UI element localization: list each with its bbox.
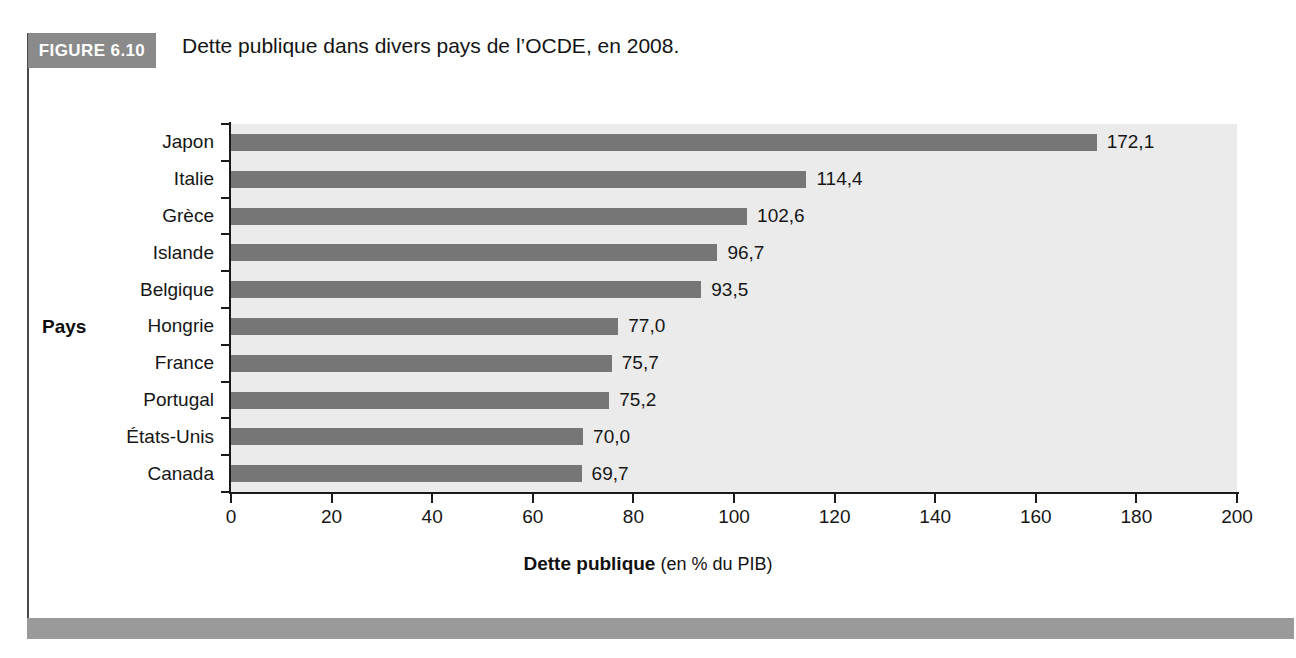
- figure-container: FIGURE 6.10 Dette publique dans divers p…: [0, 0, 1296, 658]
- x-axis-tick-label: 120: [819, 506, 851, 528]
- y-axis-title: Pays: [42, 316, 86, 338]
- x-axis-tick: [934, 494, 936, 503]
- y-axis-tick: [221, 381, 230, 383]
- y-axis-tick: [221, 491, 230, 493]
- x-axis-tick: [834, 494, 836, 503]
- bar-value-label: 75,7: [622, 353, 659, 372]
- y-axis-tick: [221, 270, 230, 272]
- y-axis-category-label: États-Unis: [126, 427, 214, 446]
- bar: [231, 428, 583, 445]
- y-axis-tick: [221, 233, 230, 235]
- x-axis-tick-label: 60: [522, 506, 543, 528]
- y-axis-category-label: Hongrie: [147, 316, 214, 335]
- y-axis-tick: [221, 417, 230, 419]
- y-axis-category-label: Islande: [153, 243, 214, 262]
- y-axis-tick: [221, 123, 230, 125]
- bar-value-label: 70,0: [593, 427, 630, 446]
- x-axis-tick-label: 100: [718, 506, 750, 528]
- bar-value-label: 114,4: [816, 169, 862, 188]
- x-axis-tick: [431, 494, 433, 503]
- x-axis-tick: [733, 494, 735, 503]
- x-axis-title: Dette publique (en % du PIB): [0, 553, 1296, 575]
- bar-value-label: 77,0: [628, 316, 665, 335]
- bar-value-label: 172,1: [1107, 132, 1155, 151]
- x-axis-tick: [532, 494, 534, 503]
- x-axis-tick: [1236, 494, 1238, 503]
- bar-value-label: 69,7: [592, 464, 629, 483]
- left-vertical-rule: [27, 33, 29, 625]
- bar: [231, 355, 612, 372]
- figure-number-badge: FIGURE 6.10: [28, 33, 156, 68]
- y-axis-tick: [221, 344, 230, 346]
- bar: [231, 318, 618, 335]
- bar-value-label: 93,5: [711, 280, 748, 299]
- y-axis-category-label: Grèce: [162, 206, 214, 225]
- x-axis-tick-label: 40: [422, 506, 443, 528]
- bar: [231, 392, 609, 409]
- x-axis-tick: [230, 494, 232, 503]
- y-axis-category-label: France: [155, 353, 214, 372]
- y-axis-tick: [221, 454, 230, 456]
- bar-value-label: 75,2: [619, 390, 656, 409]
- y-axis-tick: [221, 307, 230, 309]
- y-axis-category-label: Italie: [174, 169, 214, 188]
- x-axis-tick-label: 80: [623, 506, 644, 528]
- bottom-decorative-bar: [27, 618, 1294, 639]
- x-axis-tick: [1035, 494, 1037, 503]
- bar: [231, 465, 582, 482]
- x-axis-tick-label: 140: [919, 506, 951, 528]
- y-axis-category-label: Canada: [147, 464, 214, 483]
- y-axis-category-label: Japon: [162, 132, 214, 151]
- x-axis-tick-label: 160: [1020, 506, 1052, 528]
- bar: [231, 171, 806, 188]
- x-axis-tick: [1135, 494, 1137, 503]
- bar-value-label: 96,7: [727, 243, 764, 262]
- bar: [231, 281, 701, 298]
- y-axis-category-label: Belgique: [140, 280, 214, 299]
- x-axis-tick: [632, 494, 634, 503]
- bar: [231, 244, 717, 261]
- bar-value-label: 102,6: [757, 206, 805, 225]
- bar: [231, 134, 1097, 151]
- y-axis-tick: [221, 160, 230, 162]
- x-axis-tick-label: 180: [1121, 506, 1153, 528]
- x-axis-title-unit: (en % du PIB): [660, 554, 772, 574]
- x-axis-tick-label: 20: [321, 506, 342, 528]
- x-axis-tick-label: 200: [1221, 506, 1253, 528]
- y-axis-tick: [221, 197, 230, 199]
- bar: [231, 208, 747, 225]
- figure-caption: Dette publique dans divers pays de l’OCD…: [182, 34, 679, 58]
- y-axis-category-label: Portugal: [143, 390, 214, 409]
- x-axis-tick-label: 0: [226, 506, 237, 528]
- x-axis-tick: [331, 494, 333, 503]
- x-axis-title-main: Dette publique: [523, 553, 655, 574]
